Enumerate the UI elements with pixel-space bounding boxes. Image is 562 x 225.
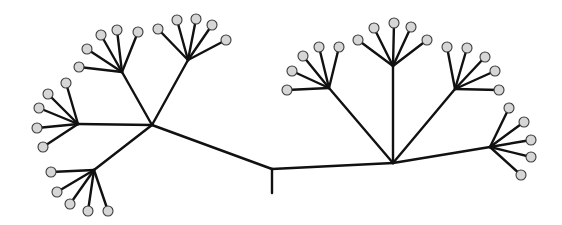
leaf-node — [103, 206, 113, 216]
tree-edges — [37, 19, 531, 211]
subtree-a-edge — [122, 72, 152, 125]
subtree-f-leaf-edge — [393, 23, 394, 66]
subtree-e-edge — [329, 88, 393, 163]
leaf-node — [96, 30, 106, 40]
subtree-g-leaf-edge — [455, 71, 495, 89]
leaf-node — [52, 187, 62, 197]
leaf-node — [207, 20, 217, 30]
leaf-node — [191, 14, 201, 24]
leaf-node — [61, 78, 71, 88]
subtree-a-leaf-edge — [122, 32, 138, 72]
leaf-node — [153, 24, 163, 34]
leaf-node — [282, 85, 292, 95]
leaf-node — [526, 135, 536, 145]
tree-diagram — [0, 0, 562, 225]
subtree-g-edge — [393, 89, 455, 163]
subtree-d-leaf-edge — [51, 170, 94, 172]
leaf-node — [46, 167, 56, 177]
subtree-c-edge — [78, 124, 152, 125]
leaf-node — [369, 23, 379, 33]
subtree-g-leaf-edge — [455, 89, 499, 90]
right-hub-edge — [272, 163, 393, 169]
subtree-c-leaf-edge — [39, 108, 78, 124]
leaf-node — [526, 152, 536, 162]
leaf-node — [287, 66, 297, 76]
subtree-d-leaf-edge — [57, 170, 94, 192]
subtree-b-edge — [152, 60, 188, 125]
subtree-g-leaf-edge — [447, 47, 455, 89]
leaf-node — [83, 206, 93, 216]
leaf-node — [221, 35, 231, 45]
leaf-node — [494, 85, 504, 95]
leaf-node — [112, 25, 122, 35]
leaf-node — [516, 170, 526, 180]
leaf-node — [334, 42, 344, 52]
leaf-node — [353, 35, 363, 45]
leaf-node — [519, 117, 529, 127]
subtree-d-edge — [94, 125, 152, 170]
leaf-node — [172, 15, 182, 25]
subtree-d-leaf-edge — [94, 170, 108, 211]
leaf-node — [38, 142, 48, 152]
leaf-node — [314, 42, 324, 52]
leaf-node — [462, 43, 472, 53]
subtree-e-leaf-edge — [287, 88, 329, 90]
leaf-node — [43, 89, 53, 99]
leaf-node — [82, 44, 92, 54]
leaf-node — [406, 22, 416, 32]
leaf-node — [389, 18, 399, 28]
left-hub-edge — [152, 125, 272, 169]
leaf-node — [442, 42, 452, 52]
leaf-node — [74, 62, 84, 72]
subtree-e-leaf-edge — [329, 47, 339, 88]
leaf-node — [32, 123, 42, 133]
leaf-node — [65, 199, 75, 209]
leaf-node — [298, 51, 308, 61]
leaf-node — [480, 52, 490, 62]
leaf-node — [133, 27, 143, 37]
leaf-node — [34, 103, 44, 113]
leaf-node — [422, 35, 432, 45]
subtree-i-edge — [393, 147, 490, 163]
leaf-node — [490, 66, 500, 76]
leaf-node — [504, 103, 514, 113]
